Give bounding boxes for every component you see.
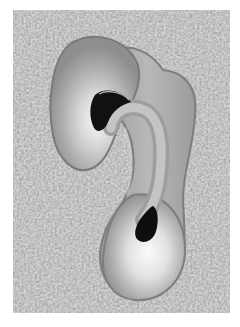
micrograph-image (13, 10, 230, 313)
specimen-figure (13, 10, 230, 313)
